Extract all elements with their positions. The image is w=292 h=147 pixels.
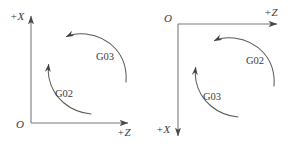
left-x-axis-label: +X (10, 11, 24, 22)
right-g02-arc (215, 38, 275, 86)
right-g02-arc-label: G02 (246, 56, 264, 67)
right-x-axis-label: +X (156, 124, 170, 135)
right-g03-arc-label: G03 (203, 92, 221, 103)
left-origin-label: O (16, 119, 24, 130)
figure-vector-canvas (0, 0, 292, 147)
right-origin-label: O (164, 13, 172, 24)
left-g03-arc-label: G03 (96, 52, 114, 63)
right-z-axis-label: +Z (264, 7, 278, 18)
left-diagram (31, 16, 128, 123)
left-z-axis-label: +Z (117, 127, 131, 138)
right-diagram (178, 24, 277, 136)
left-g02-arc-label: G02 (55, 89, 73, 100)
g02-g03-arc-direction-figure: +X O +Z G03 G02 O +Z +X G02 G03 (0, 0, 292, 147)
